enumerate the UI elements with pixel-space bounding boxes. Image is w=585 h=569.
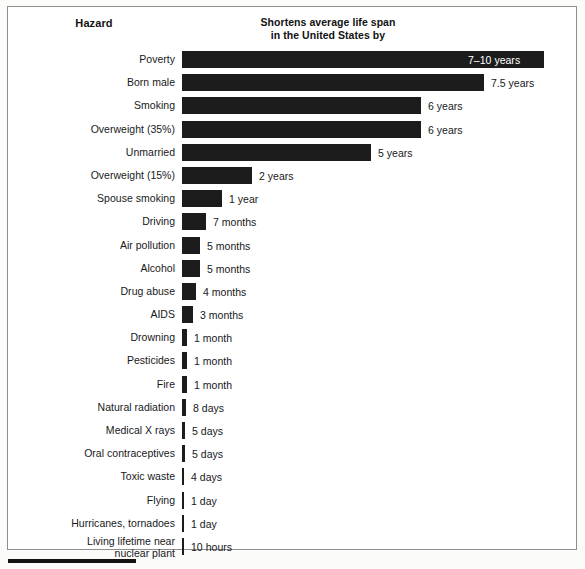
row-label: Air pollution xyxy=(8,240,175,252)
bar xyxy=(182,74,484,91)
chart-row: Toxic waste4 days xyxy=(8,466,576,489)
row-label-line1: AIDS xyxy=(8,309,175,321)
row-label: Fire xyxy=(8,379,175,391)
row-label: Medical X rays xyxy=(8,425,175,437)
row-label-line1: Natural radiation xyxy=(8,402,175,414)
page-background: Hazard Shortens average life span in the… xyxy=(0,0,585,569)
row-label: AIDS xyxy=(8,309,175,321)
chart-row: Flying1 day xyxy=(8,490,576,513)
bar xyxy=(182,190,222,207)
bar-area: 1 day xyxy=(182,515,572,532)
bar-area: 3 months xyxy=(182,306,572,323)
row-label-line1: Hurricanes, tornadoes xyxy=(8,518,175,530)
chart-row: Air pollution5 months xyxy=(8,235,576,258)
bar xyxy=(182,237,200,254)
row-label: Overweight (35%) xyxy=(8,124,175,136)
row-label: Natural radiation xyxy=(8,402,175,414)
column-header-value-line1: Shortens average life span xyxy=(198,16,458,29)
row-label: Pesticides xyxy=(8,355,175,367)
bar-area: 7.5 years xyxy=(182,74,572,91)
chart-row: Pesticides1 month xyxy=(8,350,576,373)
bar-value-label: 1 day xyxy=(191,518,217,530)
bar-area: 1 day xyxy=(182,492,572,509)
bar xyxy=(182,213,206,230)
bar-area: 5 days xyxy=(182,422,572,439)
bar xyxy=(182,260,200,277)
bar xyxy=(182,468,184,485)
bar-value-label: 2 years xyxy=(259,170,294,182)
chart-row: Alcohol5 months xyxy=(8,258,576,281)
chart-row: Medical X rays5 days xyxy=(8,420,576,443)
bar xyxy=(182,329,187,346)
chart-row: Natural radiation8 days xyxy=(8,397,576,420)
row-label-line1: Unmarried xyxy=(8,147,175,159)
bar-value-label: 1 month xyxy=(194,355,232,367)
bar-area: 5 years xyxy=(182,144,572,161)
bar xyxy=(182,399,186,416)
row-label-line1: Poverty xyxy=(8,54,175,66)
row-label-line1: Overweight (15%) xyxy=(8,170,175,182)
chart-row: Oral contraceptives5 days xyxy=(8,443,576,466)
chart-frame: Hazard Shortens average life span in the… xyxy=(7,6,577,550)
row-label-line1: Air pollution xyxy=(8,240,175,252)
row-label: Flying xyxy=(8,495,175,507)
chart-header: Hazard Shortens average life span in the… xyxy=(8,15,576,49)
bar-area: 2 years xyxy=(182,167,572,184)
bar-area: 1 month xyxy=(182,329,572,346)
bar-area: 1 month xyxy=(182,352,572,369)
chart-row: Spouse smoking1 year xyxy=(8,188,576,211)
chart-row: Unmarried5 years xyxy=(8,142,576,165)
bar xyxy=(182,167,252,184)
bar-area: 1 year xyxy=(182,190,572,207)
row-label: Poverty xyxy=(8,54,175,66)
chart-row: Drug abuse4 months xyxy=(8,281,576,304)
row-label: Toxic waste xyxy=(8,471,175,483)
bar-value-label: 1 day xyxy=(191,495,217,507)
bar xyxy=(182,538,184,555)
row-label: Drug abuse xyxy=(8,286,175,298)
bar-value-label: 1 month xyxy=(194,379,232,391)
bar-value-label: 4 days xyxy=(191,471,222,483)
chart-row: Smoking6 years xyxy=(8,95,576,118)
bar xyxy=(182,121,421,138)
row-label-line1: Oral contraceptives xyxy=(8,448,175,460)
row-label: Oral contraceptives xyxy=(8,448,175,460)
row-label: Drowning xyxy=(8,332,175,344)
bar-area: 8 days xyxy=(182,399,572,416)
chart-rows: Poverty7–10 yearsBorn male7.5 yearsSmoki… xyxy=(8,49,576,559)
row-label-line1: Overweight (35%) xyxy=(8,124,175,136)
column-header-value: Shortens average life span in the United… xyxy=(198,16,458,42)
bar xyxy=(182,352,187,369)
bar-value-label: 3 months xyxy=(200,309,243,321)
row-label-line1: Medical X rays xyxy=(8,425,175,437)
chart-row: Hurricanes, tornadoes1 day xyxy=(8,513,576,536)
bar-value-label: 5 months xyxy=(207,240,250,252)
bar xyxy=(182,376,187,393)
row-label: Alcohol xyxy=(8,263,175,275)
chart-row: Driving7 months xyxy=(8,211,576,234)
bar-value-label: 8 days xyxy=(193,402,224,414)
row-label: Unmarried xyxy=(8,147,175,159)
bar-area: 4 months xyxy=(182,283,572,300)
bar xyxy=(182,306,193,323)
bar-value-label: 5 days xyxy=(192,425,223,437)
bottom-rule xyxy=(8,559,136,563)
row-label-line1: Pesticides xyxy=(8,355,175,367)
row-label-line2: nuclear plant xyxy=(8,548,175,560)
bar-value-label: 7–10 years xyxy=(468,54,520,66)
row-label: Driving xyxy=(8,216,175,228)
bar-value-label: 1 year xyxy=(229,193,258,205)
bar-area: 5 months xyxy=(182,260,572,277)
chart-row: Drowning1 month xyxy=(8,327,576,350)
bar-area: 6 years xyxy=(182,97,572,114)
row-label: Living lifetime nearnuclear plant xyxy=(8,536,175,559)
row-label-line1: Living lifetime near xyxy=(8,536,175,548)
bar xyxy=(182,422,185,439)
bar-value-label: 7.5 years xyxy=(491,77,534,89)
bar xyxy=(182,97,421,114)
row-label-line1: Drug abuse xyxy=(8,286,175,298)
bar xyxy=(182,144,371,161)
chart-row: Overweight (15%)2 years xyxy=(8,165,576,188)
chart-row: Fire1 month xyxy=(8,374,576,397)
bar xyxy=(182,492,184,509)
